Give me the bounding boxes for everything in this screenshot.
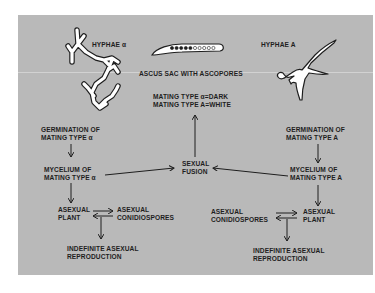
label-sexual-fusion-line2: FUSION [182, 168, 208, 176]
label-asexual-plant-alpha-line2: PLANT [58, 214, 80, 222]
label-sexual-fusion-line1: SEXUAL [182, 160, 209, 168]
label-mycelium-alpha-line2: MATING TYPE α [44, 174, 96, 182]
ascospore-dark [184, 46, 187, 49]
ascospore-dark [180, 46, 183, 49]
arrow-myc-alpha-to-fusion [105, 168, 174, 175]
label-indefinite-alpha-line1: INDEFINITE ASEXUAL [67, 245, 139, 253]
label-germination-A-line1: GERMINATION OF [286, 126, 345, 134]
ascospore-dark [175, 46, 178, 49]
ascospore-white [193, 46, 196, 49]
label-hyphae-A: HYPHAE A [261, 41, 296, 49]
label-asexual-plant-A-line1: ASEXUAL [303, 208, 335, 216]
label-ascus-sac: ASCUS SAC WITH ASCOPORES [139, 70, 243, 78]
ascospore-white [212, 46, 215, 49]
label-conidiospores-alpha-line1: ASEXUAL [117, 206, 149, 214]
label-mating-A-white: MATING TYPE A=WHITE [153, 101, 231, 109]
label-indefinite-A-line2: REPRODUCTION [253, 255, 308, 263]
label-conidiospores-alpha-line2: CONIDIOSPORES [117, 214, 174, 222]
label-indefinite-A-line1: INDEFINITE ASEXUAL [253, 247, 325, 255]
label-germination-alpha-line2: MATING TYPE α [41, 134, 93, 142]
ascus-sac-drawing [152, 44, 223, 55]
label-conidiospores-A-line1: ASEXUAL [211, 208, 243, 216]
ascospore-white [207, 46, 210, 49]
ascospore-dark [170, 46, 173, 49]
label-asexual-plant-A-line2: PLANT [303, 216, 325, 224]
label-mating-alpha-dark: MATING TYPE α=DARK [153, 93, 228, 101]
label-mycelium-alpha-line1: MYCELIUM OF [44, 166, 91, 174]
ascospore-white [203, 46, 206, 49]
label-germination-A-line2: MATING TYPE A [286, 134, 338, 142]
label-hyphae-alpha: HYPHAE α [92, 41, 126, 49]
ascospore-white [198, 46, 201, 49]
label-asexual-plant-alpha-line1: ASEXUAL [58, 206, 90, 214]
label-germination-alpha-line1: GERMINATION OF [41, 126, 100, 134]
ascospore-dark [189, 46, 192, 49]
label-mycelium-A-line1: MYCELIUM OF [290, 166, 337, 174]
hyphae-A-drawing [277, 40, 336, 100]
label-conidiospores-A-line2: CONIDIOSPORES [211, 216, 268, 224]
arrow-myc-A-to-fusion [213, 168, 288, 176]
label-indefinite-alpha-line2: REPRODUCTION [67, 253, 122, 261]
label-mycelium-A-line2: MATING TYPE A [290, 174, 342, 182]
